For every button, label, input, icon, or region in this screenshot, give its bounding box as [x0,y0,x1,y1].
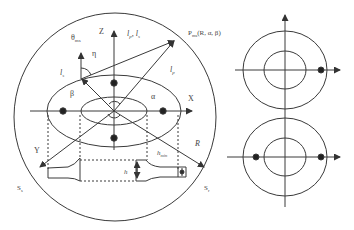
r-vector [114,111,204,167]
upper-dot-right [318,67,324,73]
profile-left [48,158,80,181]
lower-dot-right [318,154,324,160]
outer-sphere [14,13,216,221]
lp-label: lp [170,65,175,75]
r-label: R [194,139,200,148]
left-diagram [14,13,216,221]
right-diagram [227,15,340,207]
dot-right [160,108,166,114]
s-right-label: Sr [204,184,210,193]
lower-dot-left [253,154,259,160]
eta-label: η [92,49,96,58]
y-label: Y [34,146,40,155]
theta-label: θms [71,33,81,43]
x-label: X [188,94,194,103]
source-to-point [81,41,174,79]
dot-bottom [111,135,117,141]
hmin-label: hmin [157,149,168,158]
ls-label: ls [60,68,64,78]
alpha-label: α [151,92,156,101]
beta-label: β [70,89,74,98]
lower-panel [227,118,340,196]
dot-top [111,80,117,86]
y-axis [40,111,114,167]
upper-panel [235,31,340,109]
s-left-label: Ss [17,184,23,193]
lp-vector [114,41,174,111]
h-label: h [124,168,128,176]
eta-arc [81,68,91,75]
lp-ls-label: lp, ls [127,29,140,39]
z-label: Z [99,27,104,36]
diagram-canvas: Z X Y R θms η β α lp, ls ls lp Pms(R, α,… [0,0,354,230]
point-label: Pms(R, α, β) [188,29,221,38]
dot-left [60,108,66,114]
ls-vector [82,79,114,111]
diagram-svg: Z X Y R θms η β α lp, ls ls lp Pms(R, α,… [0,0,354,230]
